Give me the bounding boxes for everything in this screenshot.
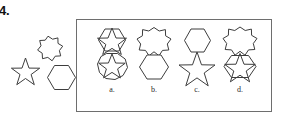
option-d-svg bbox=[217, 25, 263, 85]
eight-point-star-upper bbox=[223, 27, 257, 55]
star-inside-hexagon-upper bbox=[98, 28, 127, 55]
option-b-figure bbox=[131, 25, 177, 85]
option-b-label: b. bbox=[131, 85, 177, 94]
option-a-label: a. bbox=[89, 85, 135, 94]
option-d-figure bbox=[217, 25, 263, 85]
hexagon-icon bbox=[48, 66, 76, 90]
option-c-label: c. bbox=[174, 85, 220, 94]
option-a-svg bbox=[89, 25, 135, 85]
star-inside-octagon-lower bbox=[98, 54, 128, 80]
option-a-figure bbox=[89, 25, 135, 85]
option-b[interactable]: b. bbox=[131, 23, 177, 111]
option-a[interactable]: a. bbox=[89, 23, 135, 111]
hexagon-lower bbox=[140, 55, 169, 79]
question-number: 4. bbox=[0, 4, 9, 17]
hexagon-upper bbox=[185, 29, 211, 52]
options-frame: a. b. bbox=[76, 19, 272, 112]
eight-point-star-icon bbox=[38, 36, 63, 61]
option-c-figure bbox=[174, 25, 220, 85]
option-c[interactable]: c. bbox=[174, 23, 220, 111]
star-overlapping-hexagon-lower bbox=[224, 54, 256, 82]
five-point-star-lower bbox=[179, 52, 215, 86]
option-b-svg bbox=[131, 25, 177, 85]
option-c-svg bbox=[174, 25, 220, 85]
option-d[interactable]: d. bbox=[217, 23, 263, 111]
eight-point-star-upper bbox=[137, 28, 171, 56]
prompt-shapes-svg bbox=[12, 33, 76, 95]
five-point-star-icon bbox=[11, 58, 39, 85]
prompt-shape-group bbox=[12, 33, 76, 95]
option-d-label: d. bbox=[217, 85, 263, 94]
